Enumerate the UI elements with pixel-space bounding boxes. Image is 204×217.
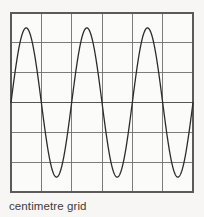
plot-svg bbox=[0, 0, 204, 200]
figure-root: centimetre grid bbox=[0, 0, 204, 217]
figure-caption: centimetre grid bbox=[9, 199, 87, 214]
centimetre-grid-plot bbox=[0, 0, 204, 200]
